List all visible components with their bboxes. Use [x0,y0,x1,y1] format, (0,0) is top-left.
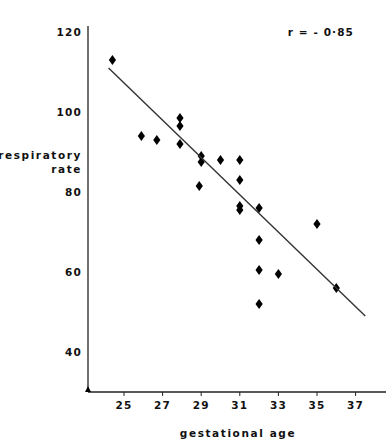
y-tick-label: 100 [56,106,82,118]
x-tick-label: 35 [308,399,325,411]
y-tick-label: 80 [65,186,82,198]
data-point-marker [275,269,282,279]
x-tick-label: 37 [347,399,364,411]
y-tick-label: 120 [56,26,82,38]
data-point-marker [217,155,224,165]
y-axis-title-line-1: respiratory [0,149,82,161]
x-tick-labels-group: 25272931333537 [115,392,364,411]
data-point-marker [236,155,243,165]
data-point-marker [256,265,263,275]
data-point-marker [138,131,145,141]
data-point-marker [256,235,263,245]
data-point-marker [198,157,205,167]
y-tick-labels-group: 406080100120 [56,26,82,358]
x-tick-label: 27 [154,399,171,411]
data-point-marker [196,181,203,191]
correlation-annotation: r = - 0·85 [288,26,354,38]
y-tick-label: 60 [65,266,82,278]
x-tick-label: 31 [231,399,248,411]
data-point-marker [176,121,183,131]
data-point-marker [236,175,243,185]
scatter-plot-figure: 406080100120 25272931333537 respiratory … [0,0,392,445]
x-axis-title: gestational age [180,427,296,439]
origin-arrow-icon [85,386,91,392]
y-axis-title-line-2: rate [51,163,82,175]
y-tick-label: 40 [65,346,82,358]
x-tick-label: 29 [193,399,210,411]
axes-group [85,26,386,392]
data-point-marker [256,299,263,309]
plot-canvas: 406080100120 25272931333537 respiratory … [0,0,392,445]
x-tick-label: 33 [270,399,287,411]
data-point-marker [176,139,183,149]
data-point-marker [153,135,160,145]
x-tick-label: 25 [115,399,132,411]
data-point-marker [313,219,320,229]
regression-trendline [109,68,366,316]
data-points-group [109,55,340,309]
data-point-marker [109,55,116,65]
